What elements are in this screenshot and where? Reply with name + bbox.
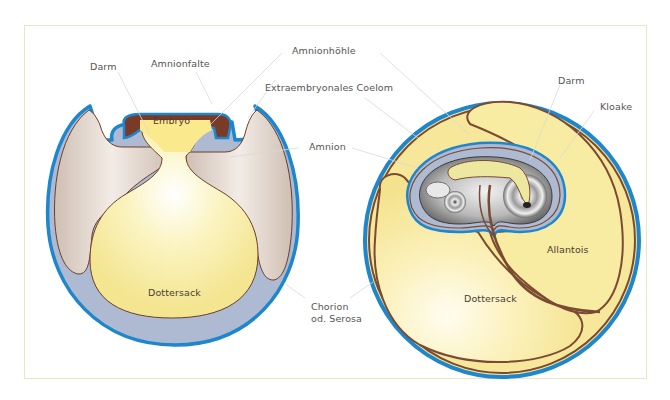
kloake-opening <box>523 202 531 208</box>
label-kloake: Kloake <box>600 101 632 113</box>
label-amnion: Amnion <box>309 141 346 153</box>
label-dottersack-right: Dottersack <box>464 293 517 305</box>
label-darm-right: Darm <box>558 75 585 87</box>
label-darm-left: Darm <box>90 61 117 73</box>
label-allantois: Allantois <box>547 244 589 256</box>
label-chorion: Chorion <box>311 301 349 313</box>
label-extraembryonales-coelom: Extraembryonales Coelom <box>265 82 393 94</box>
label-od-serosa: od. Serosa <box>311 313 362 325</box>
label-embryo: Embryo <box>153 115 190 127</box>
label-amnionfalte: Amnionfalte <box>151 58 210 70</box>
right-late-stage-illustration <box>365 102 639 377</box>
left-early-stage-illustration <box>48 106 299 345</box>
label-dottersack-left: Dottersack <box>148 287 201 299</box>
embryo-development-diagram <box>0 0 670 400</box>
label-amnionhoehle: Amnionhöhle <box>292 45 356 57</box>
